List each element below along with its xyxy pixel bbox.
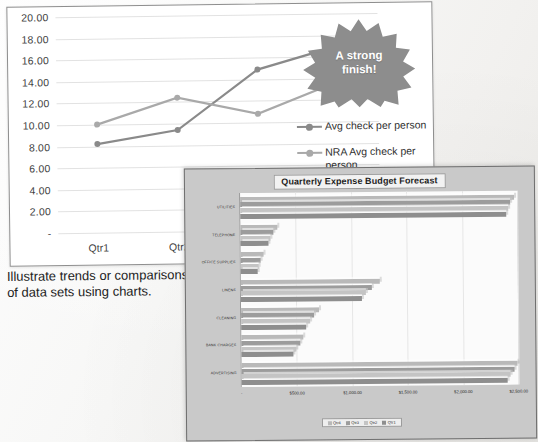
starburst-line-1: A strong xyxy=(335,49,382,63)
bar-chart-card: Quarterly Expense Budget Forecast UTILIT… xyxy=(184,165,537,441)
bar-side-shade xyxy=(307,322,309,327)
bar-segment xyxy=(240,211,506,218)
line-legend-swatch-nra-avg-check xyxy=(297,147,322,158)
line-data-point xyxy=(255,111,261,117)
line-y-tick-label: 16.00 xyxy=(22,54,49,66)
bar-side-shade xyxy=(261,256,263,261)
bar-segment xyxy=(242,378,508,385)
bar-segment xyxy=(241,296,362,302)
bar-category-label: CLEANING xyxy=(217,316,237,320)
line-data-point xyxy=(94,141,100,147)
bar-segment xyxy=(241,324,306,330)
bar-chart-legend[interactable]: Qtr4Qtr3Qtr2Qtr1 xyxy=(321,418,401,428)
bar-legend-item[interactable]: Qtr3 xyxy=(346,420,359,425)
bar-side-shade xyxy=(510,198,512,203)
bar-top-highlight xyxy=(242,228,275,230)
bar-face xyxy=(241,352,293,357)
bar-side-shade xyxy=(379,277,381,282)
bar-top-highlight xyxy=(242,234,272,236)
bar-category-label: UTILITIES xyxy=(217,205,235,209)
bar-side-shade xyxy=(297,344,299,349)
line-y-tick-label: 12.00 xyxy=(22,98,49,110)
line-legend-item-avg-check[interactable]: Avg check per person xyxy=(297,118,429,133)
line-x-tick-label: Qtr1 xyxy=(88,241,109,253)
bar-face xyxy=(240,241,268,246)
line-y-tick-label: 2.00 xyxy=(30,206,51,218)
line-y-tick-label: 18.00 xyxy=(21,33,48,45)
bar-face xyxy=(241,324,306,330)
bar-category-group: OFFICE SUPPLIES xyxy=(241,246,518,276)
bar-side-shade xyxy=(372,282,374,287)
bar-side-shade xyxy=(517,359,519,364)
line-data-point xyxy=(94,122,100,128)
bar-legend-label: Qtr2 xyxy=(370,420,378,425)
bar-side-shade xyxy=(366,288,368,293)
bar-legend-item[interactable]: Qtr1 xyxy=(382,420,395,425)
bar-category-label: OFFICE SUPPLIES xyxy=(202,260,236,264)
bar-side-shade xyxy=(293,350,295,355)
bar-x-tick-label: $2,500.00 xyxy=(509,389,528,394)
bar-side-shade xyxy=(514,364,516,369)
bar-segment xyxy=(240,241,268,246)
line-y-tick-label: 6.00 xyxy=(29,162,50,174)
bar-top-highlight xyxy=(242,222,279,224)
bar-side-shade xyxy=(303,333,305,338)
bar-legend-item[interactable]: Qtr2 xyxy=(364,420,377,425)
bar-category-group: BANK CHARGES xyxy=(241,329,518,359)
bar-top-highlight xyxy=(242,239,270,241)
bar-legend-swatch xyxy=(364,420,368,424)
bar-top-highlight xyxy=(243,250,266,252)
bar-side-shade xyxy=(271,234,273,239)
bar-chart-plot-area: UTILITIESTELEPHONEOFFICE SUPPLIESLINENSC… xyxy=(239,191,519,387)
bar-face xyxy=(241,296,362,302)
bar-x-tick-label: $2,000.00 xyxy=(454,389,473,394)
line-y-tick-label: 20.00 xyxy=(21,11,48,23)
bar-legend-item[interactable]: Qtr4 xyxy=(327,420,340,425)
bar-side-shade xyxy=(319,305,321,310)
bar-side-shade xyxy=(259,261,261,266)
bar-x-tick-label: $1,500.00 xyxy=(399,390,418,395)
bar-legend-label: Qtr1 xyxy=(388,420,396,425)
bar-side-shade xyxy=(362,294,364,299)
bar-side-shade xyxy=(508,376,510,381)
line-y-tick-label: 8.00 xyxy=(29,141,50,153)
bar-side-shade xyxy=(300,339,302,344)
bar-category-group: UTILITIES xyxy=(240,191,517,221)
caption-text: Illustrate trends or comparisons of data… xyxy=(7,267,191,301)
bar-segment xyxy=(241,352,293,357)
bar-side-shade xyxy=(514,193,516,198)
bar-face xyxy=(241,269,258,274)
bar-category-label: ADVERTISING xyxy=(211,371,237,375)
bar-legend-swatch xyxy=(346,421,350,425)
bar-side-shade xyxy=(511,370,513,375)
bar-side-shade xyxy=(310,316,312,321)
bar-category-label: BANK CHARGES xyxy=(206,343,236,347)
bar-side-shade xyxy=(506,209,508,214)
bar-segment xyxy=(241,269,258,274)
bar-category-group: TELEPHONE xyxy=(240,218,517,248)
bar-legend-label: Qtr4 xyxy=(333,420,341,425)
line-y-tick-label: 4.00 xyxy=(29,184,50,196)
bar-legend-swatch xyxy=(327,421,331,425)
bar-chart-series: UTILITIESTELEPHONEOFFICE SUPPLIESLINENSC… xyxy=(240,191,517,193)
line-y-tick-label: 14.00 xyxy=(22,76,49,88)
bar-x-tick-label: - xyxy=(241,391,242,396)
bar-chart-title: Quarterly Expense Budget Forecast xyxy=(273,173,445,190)
bar-category-label: TELEPHONE xyxy=(212,233,235,237)
bar-legend-label: Qtr3 xyxy=(351,420,359,425)
bar-category-group: LINENS xyxy=(241,274,518,304)
bar-top-highlight xyxy=(243,256,264,258)
bar-legend-swatch xyxy=(382,420,386,424)
bar-x-tick-label: $1,000.00 xyxy=(343,390,362,395)
starburst-text: A strong finish! xyxy=(300,16,417,110)
bar-category-group: ADVERTISING xyxy=(241,357,518,387)
bar-side-shade xyxy=(257,267,259,272)
line-y-tick-label: 10.00 xyxy=(23,119,50,131)
bar-side-shade xyxy=(268,239,270,244)
bar-x-tick-label: $500.00 xyxy=(290,390,305,395)
line-legend-swatch-avg-check xyxy=(297,121,322,132)
line-y-tick-label: - xyxy=(48,227,52,239)
starburst-line-2: finish! xyxy=(342,63,377,77)
bar-category-group: CLEANING xyxy=(241,301,518,331)
bar-side-shade xyxy=(508,204,510,209)
